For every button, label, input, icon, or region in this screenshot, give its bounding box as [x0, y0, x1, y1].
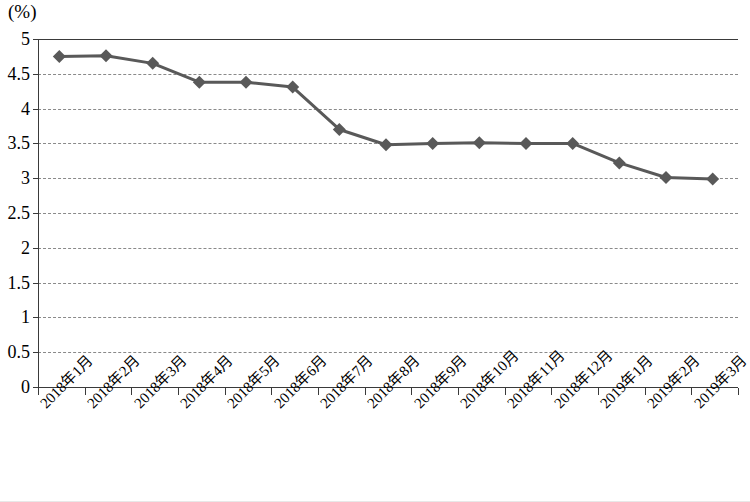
- line-chart: (%) 00.511.522.533.544.55 2018年1月2018年2月…: [0, 0, 750, 502]
- x-axis-tick-labels: 2018年1月2018年2月2018年3月2018年4月2018年5月2018年…: [0, 0, 750, 502]
